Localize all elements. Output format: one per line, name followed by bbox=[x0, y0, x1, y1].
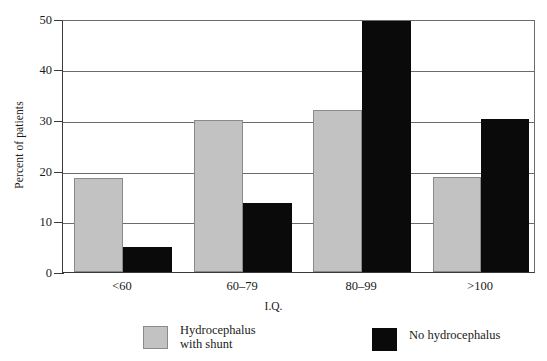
x-tick-label-80-99: 80–99 bbox=[312, 279, 410, 294]
y-axis-tick bbox=[54, 273, 64, 274]
bar-60-79-no-hydrocephalus bbox=[243, 203, 292, 272]
bar-gt100-hydrocephalus-with-shunt bbox=[433, 177, 481, 272]
legend-item-no-hydrocephalus: No hydrocephalus bbox=[372, 326, 500, 351]
legend-label: No hydrocephalus bbox=[409, 326, 500, 343]
bar-gt100-no-hydrocephalus bbox=[481, 119, 529, 272]
y-tick-label: 50 bbox=[18, 14, 52, 26]
x-tick-label-60-79: 60–79 bbox=[193, 279, 291, 294]
bar-chart-figure: 50 40 30 20 10 0 Percent of patients bbox=[0, 0, 547, 361]
legend-swatch-black bbox=[372, 328, 397, 351]
legend-item-hydrocephalus-with-shunt: Hydrocephalus with shunt bbox=[143, 324, 256, 351]
chart-legend: Hydrocephalus with shunt No hydrocephalu… bbox=[0, 324, 547, 361]
x-tick-label-gt100: >100 bbox=[431, 279, 529, 294]
bar-lt60-hydrocephalus-with-shunt bbox=[74, 178, 123, 272]
y-tick-label: 0 bbox=[18, 267, 52, 279]
bar-60-79-hydrocephalus-with-shunt bbox=[194, 120, 243, 272]
y-axis-title: Percent of patients bbox=[13, 70, 25, 220]
legend-label: Hydrocephalus with shunt bbox=[180, 324, 256, 351]
bar-lt60-no-hydrocephalus bbox=[123, 247, 172, 272]
x-axis-title: I.Q. bbox=[0, 300, 547, 312]
bar-80-99-hydrocephalus-with-shunt bbox=[313, 110, 362, 272]
gridline-40 bbox=[63, 71, 534, 72]
legend-swatch-gray bbox=[143, 326, 168, 349]
gridline-30 bbox=[63, 122, 534, 123]
bar-80-99-no-hydrocephalus bbox=[362, 21, 411, 272]
x-tick-label-lt60: <60 bbox=[73, 279, 171, 294]
gridline-20 bbox=[63, 173, 534, 174]
plot-area bbox=[62, 20, 535, 273]
